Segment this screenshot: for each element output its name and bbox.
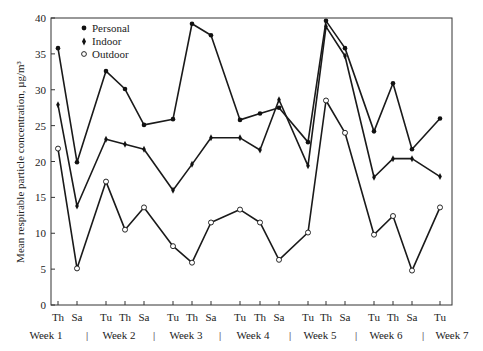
x-tick-label: Sa (407, 311, 418, 323)
legend-personal-marker-icon (82, 26, 87, 31)
data-point-open-circle-icon (410, 268, 415, 273)
x-tick-label: Tu (368, 311, 380, 323)
plot-border (51, 18, 452, 305)
y-tick-label: 20 (35, 156, 47, 168)
data-point-open-circle-icon (142, 205, 147, 210)
legend-outdoor-label: Outdoor (92, 48, 129, 60)
week-label: Week 5 (303, 329, 337, 341)
data-point-filled-circle-icon (343, 46, 348, 51)
y-tick-label: 5 (41, 263, 47, 275)
data-point-open-circle-icon (343, 130, 348, 135)
data-point-open-circle-icon (258, 220, 263, 225)
y-tick-label: 15 (35, 191, 47, 203)
data-point-filled-circle-icon (142, 123, 147, 128)
data-point-open-circle-icon (190, 260, 195, 265)
x-tick-label: Sa (274, 311, 285, 323)
data-point-diamond-icon (123, 141, 127, 148)
week-label: Week 7 (435, 329, 469, 341)
data-point-diamond-icon (391, 155, 395, 162)
data-point-filled-circle-icon (258, 111, 263, 116)
data-point-open-circle-icon (391, 214, 396, 219)
data-point-diamond-icon (438, 173, 442, 180)
series-outdoor (56, 98, 443, 273)
data-point-open-circle-icon (171, 244, 176, 249)
week-label: Week 4 (236, 329, 270, 341)
x-tick-label: Tu (234, 311, 246, 323)
data-point-open-circle-icon (56, 146, 61, 151)
data-point-filled-circle-icon (238, 118, 243, 123)
data-point-open-circle-icon (123, 227, 128, 232)
week-separator: | (86, 329, 88, 341)
data-point-open-circle-icon (438, 205, 443, 210)
data-point-open-circle-icon (372, 232, 377, 237)
y-tick-label: 10 (35, 227, 47, 239)
x-tick-label: Sa (206, 311, 217, 323)
data-point-open-circle-icon (209, 220, 214, 225)
legend-indoor-marker-icon (82, 38, 86, 46)
x-tick-label: Sa (72, 311, 83, 323)
week-label: Week 6 (369, 329, 403, 341)
y-tick-label: 30 (35, 84, 47, 96)
data-point-filled-circle-icon (190, 21, 195, 26)
week-separator: | (219, 329, 221, 341)
data-point-filled-circle-icon (391, 81, 396, 86)
x-tick-label: Tu (167, 311, 179, 323)
legend-outdoor-marker-icon (82, 52, 87, 57)
data-point-filled-circle-icon (104, 69, 109, 74)
x-tick-label: Th (186, 311, 199, 323)
x-tick-label: Th (52, 311, 65, 323)
x-tick-label: Th (119, 311, 132, 323)
week-separator: | (153, 329, 155, 341)
legend: Personal Indoor Outdoor (82, 22, 130, 60)
y-tick-label: 25 (35, 120, 47, 132)
plot-frame (51, 18, 452, 305)
data-point-filled-circle-icon (56, 46, 61, 51)
data-point-filled-circle-icon (306, 140, 311, 145)
x-tick-label: Tu (100, 311, 112, 323)
x-tick-label: Tu (434, 311, 446, 323)
data-point-diamond-icon (410, 155, 414, 162)
week-separator: | (355, 329, 357, 341)
week-separator: | (422, 329, 424, 341)
series-line (58, 101, 440, 271)
x-tick-label: Sa (139, 311, 150, 323)
data-point-open-circle-icon (277, 257, 282, 262)
data-point-open-circle-icon (238, 207, 243, 212)
x-tick-label: Tu (302, 311, 314, 323)
data-point-open-circle-icon (324, 98, 329, 103)
x-tick-label: Th (320, 311, 333, 323)
x-tick-label: Th (387, 311, 400, 323)
x-tick-label: Sa (340, 311, 351, 323)
data-point-filled-circle-icon (75, 160, 80, 165)
legend-personal-label: Personal (92, 22, 130, 34)
data-point-filled-circle-icon (372, 129, 377, 134)
data-point-open-circle-icon (75, 266, 80, 271)
data-point-filled-circle-icon (410, 147, 415, 152)
line-chart: 0510152025303540 ThSaTuThSaTuThSaTuThSaT… (0, 0, 483, 351)
data-point-open-circle-icon (104, 179, 109, 184)
data-point-filled-circle-icon (171, 117, 176, 122)
data-point-filled-circle-icon (324, 19, 329, 24)
data-point-filled-circle-icon (123, 87, 128, 92)
week-label: Week 2 (102, 329, 135, 341)
y-tick-label: 0 (41, 299, 47, 311)
y-axis: 0510152025303540 (35, 12, 55, 311)
data-point-filled-circle-icon (209, 33, 214, 38)
y-tick-label: 40 (35, 12, 47, 24)
y-axis-title: Mean respirable particle concentration, … (14, 60, 26, 262)
data-point-open-circle-icon (306, 230, 311, 235)
data-point-filled-circle-icon (438, 116, 443, 121)
week-label: Week 3 (169, 329, 203, 341)
week-label: Week 1 (29, 329, 62, 341)
y-tick-label: 35 (35, 48, 47, 60)
x-axis: ThSaTuThSaTuThSaTuThSaTuThSaTuThSaTuWeek… (29, 301, 469, 341)
legend-indoor-label: Indoor (92, 35, 122, 47)
week-separator: | (289, 329, 291, 341)
data-point-diamond-icon (238, 134, 242, 141)
x-tick-label: Th (254, 311, 267, 323)
